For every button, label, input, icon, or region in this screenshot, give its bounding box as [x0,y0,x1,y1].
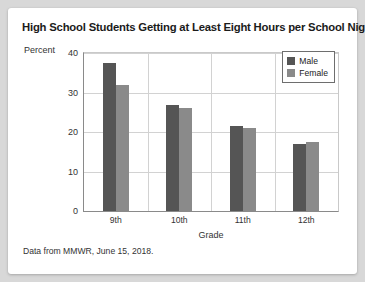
bar-male-11th [230,126,243,211]
gridline-vertical [275,53,276,211]
bar-female-10th [179,108,192,211]
gridline-vertical [148,53,149,211]
bar-female-11th [243,128,256,211]
legend-label: Female [299,68,328,78]
source-note: Data from MMWR, June 15, 2018. [23,246,153,256]
bar-male-9th [103,63,116,211]
bar-male-10th [166,105,179,211]
chart-legend: MaleFemale [282,51,335,83]
x-tick-label: 12th [298,215,315,225]
legend-item-female: Female [287,67,328,79]
gridline-vertical [211,53,212,211]
bar-female-9th [116,85,129,211]
legend-swatch-female [287,69,295,77]
legend-label: Male [299,56,318,66]
chart-card: High School Students Getting at Least Ei… [8,8,357,274]
y-tick-label: 0 [73,206,78,216]
y-tick-label: 30 [68,88,78,98]
y-tick-label: 20 [68,127,78,137]
y-tick-label: 40 [68,48,78,58]
legend-item-male: Male [287,55,328,67]
plot-wrapper: Percent 0102030409th10th11th12th Grade M… [22,42,344,222]
x-tick-label: 9th [110,215,122,225]
y-tick-label: 10 [68,167,78,177]
page-title: High School Students Getting at Least Ei… [22,21,347,33]
x-tick-label: 11th [235,215,251,225]
x-tick-label: 10th [171,215,188,225]
x-axis-title: Grade [83,230,339,240]
legend-swatch-male [287,57,295,65]
bar-female-12th [306,142,319,211]
bar-male-12th [293,144,306,211]
y-axis-title: Percent [24,45,55,55]
